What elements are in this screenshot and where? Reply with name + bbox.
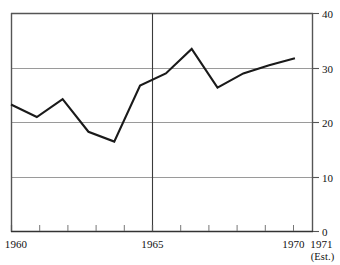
- estimate-note: (Est.): [305, 251, 340, 263]
- line-chart: 40 30 20 10 0 1960 1965 1970 1971 (Est.): [0, 0, 340, 265]
- y-tick-label-30: 30: [322, 63, 333, 75]
- gridlines: [11, 69, 313, 178]
- x-tick-label-1971: 1971: [305, 238, 338, 250]
- x-tick-label-1965: 1965: [136, 238, 169, 250]
- y-tick-label-0: 0: [322, 226, 328, 238]
- x-axis-ticks: [12, 225, 294, 231]
- y-tick-label-20: 20: [322, 117, 333, 129]
- y-tick-label-40: 40: [322, 8, 333, 20]
- x-tick-label-1960: 1960: [0, 238, 32, 250]
- y-axis-ticks: [313, 14, 319, 232]
- chart-canvas: [0, 0, 340, 265]
- y-tick-label-10: 10: [322, 172, 333, 184]
